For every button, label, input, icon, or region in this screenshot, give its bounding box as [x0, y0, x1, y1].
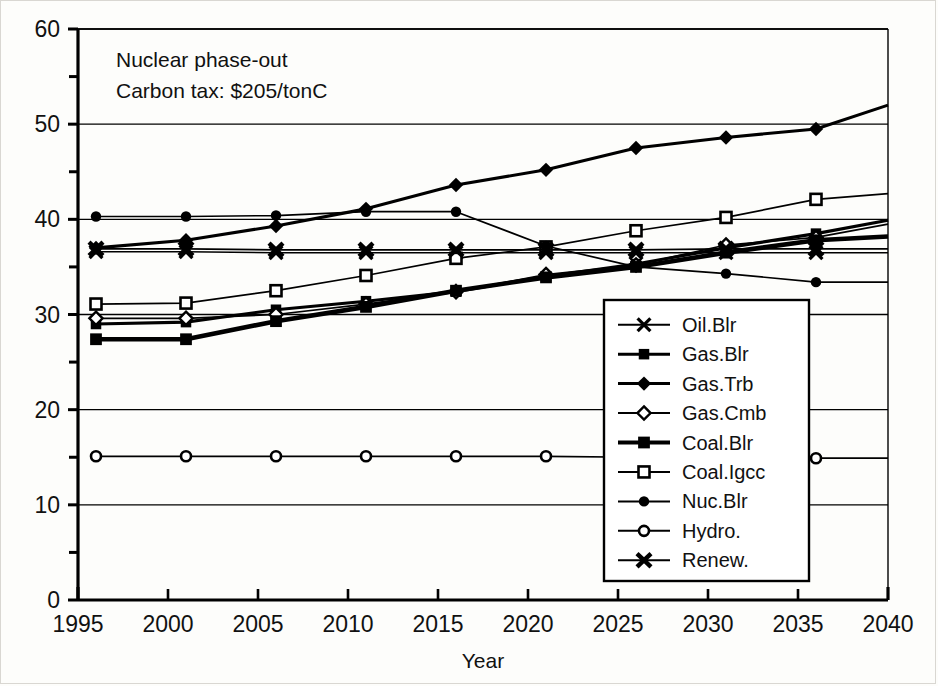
- open-square-marker: [361, 270, 372, 281]
- data-point-marker: [360, 301, 372, 313]
- data-point-marker: [361, 451, 371, 461]
- data-point-marker: [361, 270, 372, 281]
- filled-square-marker: [639, 349, 650, 360]
- filled-circle-marker: [91, 211, 101, 221]
- data-point-marker: [271, 451, 281, 461]
- data-point-marker: [719, 130, 733, 144]
- data-point-marker: [91, 451, 101, 461]
- data-point-marker: [181, 298, 192, 309]
- x-axis-tick-label: 2020: [502, 611, 553, 637]
- filled-diamond-marker: [449, 178, 463, 192]
- data-point-marker: [541, 451, 551, 461]
- filled-diamond-marker: [629, 141, 643, 155]
- filled-circle-marker: [181, 211, 191, 221]
- data-point-marker: [631, 225, 642, 236]
- y-axis-tick-label: 20: [34, 397, 60, 423]
- filled-circle-marker: [271, 210, 281, 220]
- filled-square-marker: [540, 272, 552, 284]
- legend-item-label: Renew.: [682, 549, 749, 571]
- filled-square-marker: [270, 315, 282, 327]
- x-axis-tick-label: 2030: [682, 611, 733, 637]
- data-point-marker: [451, 207, 461, 217]
- legend-item-label: Gas.Blr: [682, 343, 749, 365]
- filled-diamond-marker: [269, 219, 283, 233]
- data-point-marker: [629, 141, 643, 155]
- data-point-marker: [631, 262, 641, 272]
- data-point-marker: [90, 333, 102, 345]
- data-point-marker: [539, 163, 553, 177]
- y-axis-tick-label: 30: [34, 302, 60, 328]
- filled-circle-marker: [811, 277, 821, 287]
- series-line: [96, 252, 888, 253]
- data-point-marker: [540, 272, 552, 284]
- x-axis-title: Year: [462, 649, 504, 672]
- data-point-marker: [270, 315, 282, 327]
- open-square-marker: [721, 212, 732, 223]
- y-axis-tick-label: 40: [34, 206, 60, 232]
- x-axis-tick-label: 2000: [142, 611, 193, 637]
- x-axis-tick-label: 2010: [322, 611, 373, 637]
- x-axis-tick-label: 2025: [592, 611, 643, 637]
- data-point-marker: [269, 219, 283, 233]
- legend-item-label: Hydro.: [682, 520, 741, 542]
- legend-item-label: Oil.Blr: [682, 314, 737, 336]
- filled-circle-marker: [721, 268, 731, 278]
- data-point-marker: [639, 526, 649, 536]
- y-axis-tick-label: 60: [34, 16, 60, 42]
- data-point-marker: [449, 178, 463, 192]
- data-point-marker: [181, 211, 191, 221]
- open-square-marker: [181, 298, 192, 309]
- filled-square-marker: [450, 285, 462, 297]
- data-point-marker: [639, 349, 650, 360]
- annotation-line-1: Nuclear phase-out: [116, 48, 288, 71]
- data-point-marker: [91, 211, 101, 221]
- data-point-marker: [361, 207, 371, 217]
- annotation-line-2: Carbon tax: $205/tonC: [116, 79, 327, 102]
- open-circle-marker: [811, 453, 821, 463]
- filled-square-marker: [638, 437, 650, 449]
- series-line: [96, 249, 888, 250]
- open-circle-marker: [271, 451, 281, 461]
- data-point-marker: [811, 453, 821, 463]
- data-point-marker: [271, 285, 282, 296]
- open-circle-marker: [181, 451, 191, 461]
- filled-circle-marker: [639, 496, 649, 506]
- data-point-marker: [811, 277, 821, 287]
- legend-item-label: Coal.Blr: [682, 432, 753, 454]
- data-point-marker: [450, 285, 462, 297]
- y-axis-tick-label: 0: [47, 587, 60, 613]
- x-axis-tick-label: 2005: [232, 611, 283, 637]
- legend-item-label: Nuc.Blr: [682, 490, 748, 512]
- filled-diamond-marker: [539, 163, 553, 177]
- legend-item-label: Coal.Igcc: [682, 461, 765, 483]
- filled-diamond-marker: [719, 130, 733, 144]
- filled-square-marker: [360, 301, 372, 313]
- legend-item-label: Gas.Trb: [682, 373, 754, 395]
- data-point-marker: [721, 268, 731, 278]
- open-circle-marker: [541, 451, 551, 461]
- data-point-marker: [91, 299, 102, 310]
- filled-circle-marker: [631, 262, 641, 272]
- data-point-marker: [271, 210, 281, 220]
- filled-square-marker: [90, 333, 102, 345]
- open-circle-marker: [451, 451, 461, 461]
- x-axis-tick-label: 2015: [412, 611, 463, 637]
- y-axis-tick-label: 10: [34, 492, 60, 518]
- open-square-marker: [91, 299, 102, 310]
- data-point-marker: [639, 496, 649, 506]
- data-point-marker: [639, 466, 650, 477]
- filled-circle-marker: [361, 207, 371, 217]
- series-gas-trb: [89, 105, 888, 255]
- y-axis-tick-label: 50: [34, 111, 60, 137]
- data-point-marker: [181, 451, 191, 461]
- line-chart: 1995200020052010201520202025203020352040…: [0, 0, 938, 686]
- filled-circle-marker: [451, 207, 461, 217]
- data-point-marker: [811, 194, 822, 205]
- open-square-marker: [639, 466, 650, 477]
- open-circle-marker: [361, 451, 371, 461]
- data-point-marker: [180, 333, 192, 345]
- x-axis-tick-label: 1995: [52, 611, 103, 637]
- data-point-marker: [721, 212, 732, 223]
- series-line: [96, 105, 888, 248]
- figure-page: 1995200020052010201520202025203020352040…: [0, 0, 938, 686]
